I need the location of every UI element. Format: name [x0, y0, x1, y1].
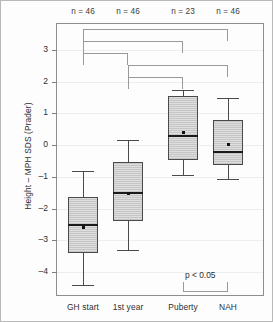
y-tick-label: 1: [26, 107, 48, 117]
whisker-cap-lower: [117, 250, 139, 251]
y-tick-mark: [52, 209, 57, 210]
mean-marker: [182, 131, 185, 134]
whisker-lower: [128, 221, 129, 250]
y-tick-label: –4: [26, 266, 48, 276]
significance-bracket: [128, 65, 228, 77]
y-tick-mark: [52, 240, 57, 241]
y-tick-mark: [52, 113, 57, 114]
whisker-lower: [83, 253, 84, 285]
whisker-upper: [128, 140, 129, 162]
pvalue-label: p < 0.05: [185, 270, 216, 280]
whisker-cap-lower: [172, 175, 194, 176]
whisker-lower: [228, 165, 229, 179]
whisker-cap-upper: [172, 90, 194, 91]
group-count-label: n = 46: [198, 7, 258, 16]
y-tick-mark: [52, 50, 57, 51]
gridline: [57, 113, 263, 114]
y-tick-label: –3: [26, 234, 48, 244]
y-tick-label: 3: [26, 44, 48, 54]
mean-marker: [227, 143, 230, 146]
significance-bracket: [83, 29, 228, 41]
significance-bracket: [83, 41, 183, 53]
whisker-upper: [83, 171, 84, 197]
median-line: [168, 135, 198, 137]
y-tick-label: –2: [26, 203, 48, 213]
chart-stage: Height – MPH SDS (Prader) 3210–1–2–3–4n …: [1, 1, 273, 322]
y-tick-label: 2: [26, 76, 48, 86]
y-tick-label: 0: [26, 139, 48, 149]
whisker-cap-upper: [117, 140, 139, 141]
whisker-cap-upper: [72, 171, 94, 172]
median-line: [213, 151, 243, 153]
group-count-label: n = 46: [98, 7, 158, 16]
x-axis-label: NAH: [196, 302, 260, 312]
pvalue-bracket: [183, 282, 228, 292]
mean-marker: [82, 226, 85, 229]
whisker-cap-upper: [217, 98, 239, 99]
y-tick-mark: [52, 177, 57, 178]
y-tick-mark: [52, 82, 57, 83]
y-tick-mark: [52, 272, 57, 273]
whisker-upper: [228, 98, 229, 120]
y-tick-label: –1: [26, 171, 48, 181]
mean-marker: [127, 192, 130, 195]
figure-frame: Height – MPH SDS (Prader) 3210–1–2–3–4n …: [0, 0, 273, 322]
significance-bracket: [83, 53, 128, 65]
whisker-cap-lower: [217, 179, 239, 180]
significance-bracket: [128, 77, 183, 89]
whisker-lower: [183, 160, 184, 175]
gridline: [57, 272, 263, 273]
gridline: [57, 177, 263, 178]
whisker-cap-lower: [72, 285, 94, 286]
box-puberty: [168, 96, 198, 160]
y-tick-mark: [52, 145, 57, 146]
